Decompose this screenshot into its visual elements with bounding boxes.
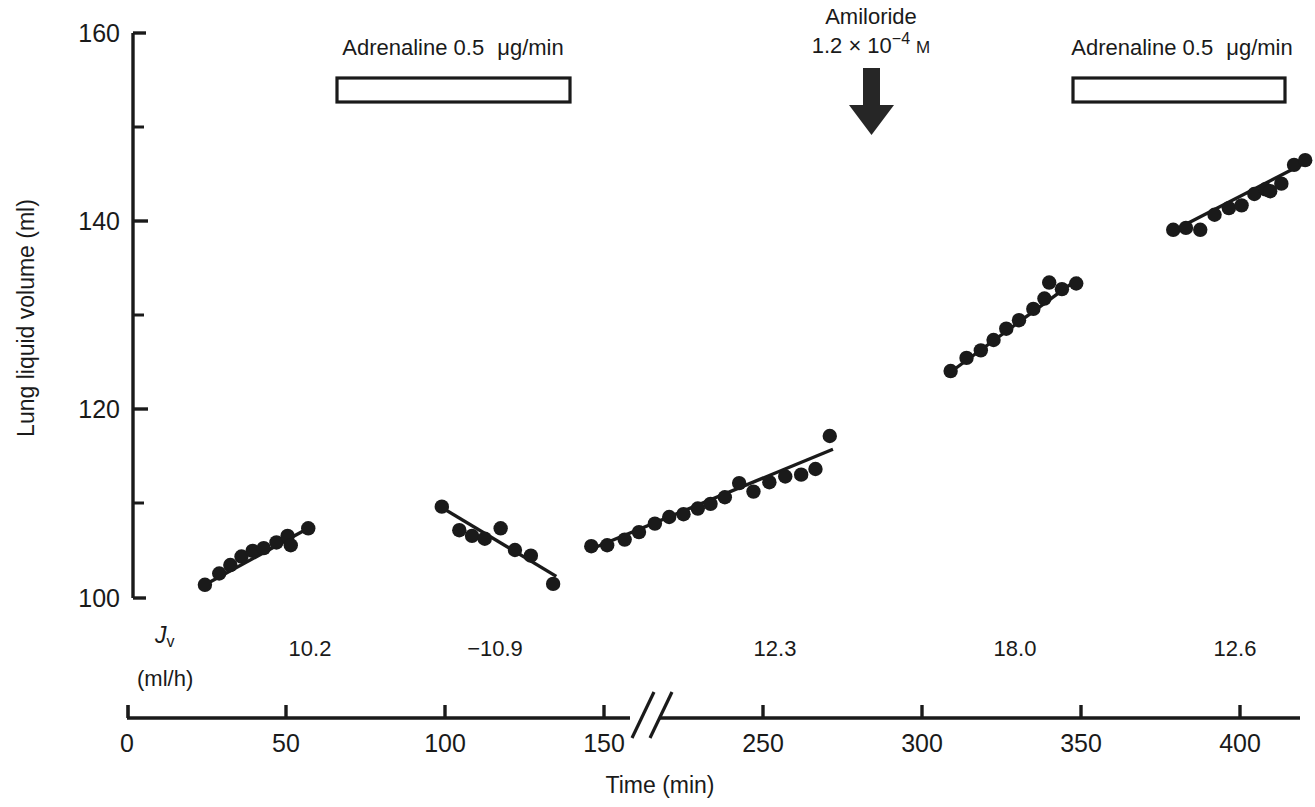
y-axis: 160 140 120 100 Lung liquid volume (ml) (13, 19, 148, 612)
adrenaline-bar-1-rect (337, 78, 570, 102)
data-point (943, 364, 957, 378)
data-point (1193, 223, 1207, 237)
x-tick-label-350: 350 (1060, 729, 1102, 757)
data-point (1055, 282, 1069, 296)
y-tick-label-140: 140 (78, 207, 120, 235)
data-point (284, 538, 298, 552)
data-point (691, 501, 705, 515)
data-point (508, 543, 522, 557)
data-point (1234, 198, 1248, 212)
adrenaline-bar-1-label-unit: μg/min (497, 35, 563, 60)
fit-lines (205, 162, 1307, 585)
axis-break-icon (632, 692, 672, 738)
x-axis: 0 50 100 150 250 300 350 400 Time (min) (120, 692, 1300, 798)
amiloride-concentration: 1.2 × 10 (812, 33, 892, 58)
data-point (478, 531, 492, 545)
x-tick-label-300: 300 (901, 729, 943, 757)
adrenaline-bar-1-group: Adrenaline 0.5 μg/min (337, 35, 570, 102)
data-point (1012, 313, 1026, 327)
amiloride-label-line2: 1.2 × 10−4M (812, 30, 931, 58)
data-point (1069, 276, 1083, 290)
fit-line-segment-5-adrenaline-2 (1173, 162, 1307, 231)
data-point (974, 343, 988, 357)
data-point (999, 321, 1013, 335)
data-point (1042, 275, 1056, 289)
data-point (762, 475, 776, 489)
data-point (778, 469, 792, 483)
lung-liquid-volume-figure: 160 140 120 100 Lung liquid volume (ml) (0, 0, 1315, 807)
data-point (546, 577, 560, 591)
data-point (493, 521, 507, 535)
data-point (1179, 221, 1193, 235)
data-point (959, 351, 973, 365)
data-point (1274, 176, 1288, 190)
data-point (676, 507, 690, 521)
data-point (524, 548, 538, 562)
data-point (584, 539, 598, 553)
data-point (794, 467, 808, 481)
data-point (1037, 291, 1051, 305)
data-point (808, 462, 822, 476)
y-tick-label-160: 160 (78, 19, 120, 47)
data-point (648, 516, 662, 530)
data-point (465, 529, 479, 543)
x-tick-label-100: 100 (424, 729, 466, 757)
data-point (823, 429, 837, 443)
x-tick-label-150: 150 (583, 729, 625, 757)
data-point (452, 523, 466, 537)
amiloride-arrow-group: Amiloride 1.2 × 10−4M (812, 4, 931, 135)
adrenaline-bar-2-label-text: Adrenaline 0.5 (1071, 35, 1213, 60)
y-tick-label-100: 100 (78, 584, 120, 612)
amiloride-exponent: −4 (892, 30, 910, 47)
adrenaline-bar-2-label-unit: μg/min (1226, 35, 1292, 60)
adrenaline-bar-1-label-text: Adrenaline 0.5 (342, 35, 484, 60)
fit-line-segment-2-adrenaline-1 (442, 508, 556, 577)
adrenaline-bar-2-label: Adrenaline 0.5 μg/min (1071, 35, 1293, 60)
adrenaline-bar-2-rect (1073, 78, 1285, 102)
x-axis-title: Time (min) (605, 772, 714, 798)
data-point (986, 333, 1000, 347)
x-tick-label-400: 400 (1219, 729, 1261, 757)
data-point (1298, 153, 1312, 167)
data-point (257, 541, 271, 555)
data-point (703, 497, 717, 511)
data-point (1207, 208, 1221, 222)
data-point (732, 476, 746, 490)
amiloride-label-line1: Amiloride (825, 4, 917, 29)
adrenaline-bar-1-label: Adrenaline 0.5 μg/min (342, 35, 564, 60)
x-tick-label-0: 0 (120, 729, 134, 757)
data-point (1222, 201, 1236, 215)
data-point (1166, 223, 1180, 237)
y-axis-title: Lung liquid volume (ml) (13, 199, 39, 437)
amiloride-molar-unit: M (916, 38, 930, 57)
data-point (662, 510, 676, 524)
data-point (1026, 302, 1040, 316)
data-point (746, 484, 760, 498)
data-point (435, 499, 449, 513)
data-point (198, 578, 212, 592)
chart-canvas: 160 140 120 100 Lung liquid volume (ml) (0, 0, 1315, 807)
y-tick-label-120: 120 (78, 395, 120, 423)
data-point (617, 532, 631, 546)
data-point (301, 521, 315, 535)
data-point (718, 490, 732, 504)
x-tick-label-250: 250 (742, 729, 784, 757)
adrenaline-bar-2-group: Adrenaline 0.5 μg/min (1071, 35, 1293, 102)
data-point (632, 525, 646, 539)
x-tick-label-50: 50 (272, 729, 300, 757)
data-point (600, 538, 614, 552)
data-points (198, 153, 1313, 592)
down-arrow-icon (849, 68, 894, 135)
